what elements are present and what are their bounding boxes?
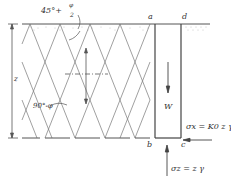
sigma-z-label: σz = z γ (171, 165, 204, 173)
principal-stress-cross (65, 48, 108, 104)
sigma-z-arrow (165, 145, 168, 176)
corner-b-label: b (147, 141, 152, 149)
depth-label: z (14, 76, 18, 83)
corner-d-label: d (182, 13, 187, 21)
angle-label-top: 45°+ (41, 7, 62, 15)
weight-label: W (164, 103, 172, 111)
corner-a-label: a (148, 13, 153, 21)
angle-leader-top (78, 15, 80, 29)
weight-arrow (166, 62, 169, 93)
sigma-x-label: σx = K0 z γ (186, 123, 231, 131)
sigma-x-arrow (183, 138, 212, 141)
angle-arc-top (69, 31, 80, 40)
angle-label-mid: 90°-φ (33, 103, 53, 110)
angle-label-top-numerator: φ (69, 2, 73, 8)
diagram-canvas (0, 0, 231, 182)
angle-label-top-denominator: 2 (70, 12, 74, 18)
soil-dots-right (186, 27, 207, 31)
corner-c-label: c (181, 141, 185, 149)
